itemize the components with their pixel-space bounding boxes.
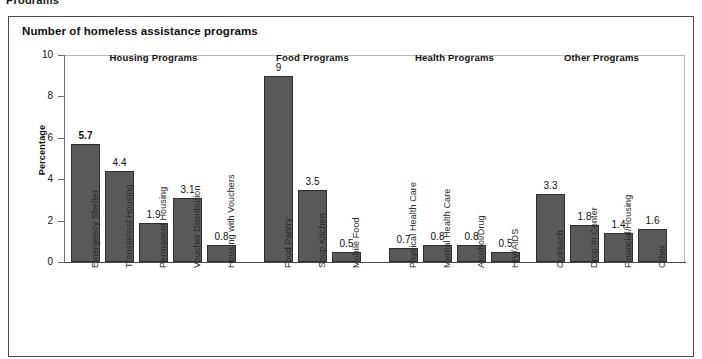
- bar-value-label: 3.5: [286, 176, 339, 187]
- y-axis-tick-label: 6: [9, 132, 53, 143]
- bar-value-label: 0.8: [195, 231, 248, 242]
- y-axis-line: [64, 55, 65, 263]
- x-axis-label: Emergency Shelter: [90, 190, 100, 268]
- cropped-header-text: Programs: [6, 0, 59, 4]
- x-axis-label: Outreach: [555, 230, 565, 268]
- x-axis-label: Mobile Food: [351, 217, 361, 268]
- bar-value-label: 9: [252, 62, 305, 73]
- bar-value-label: 1.6: [626, 215, 679, 226]
- x-axis-label: Housing with Vouchers: [226, 174, 236, 268]
- y-axis-tick-label: 8: [9, 90, 53, 101]
- y-axis-tick-label: 0: [9, 256, 53, 267]
- x-axis-label: Financial/Housing: [623, 195, 633, 268]
- bar-value-label: 4.4: [93, 157, 146, 168]
- bar-value-label: 3.3: [524, 180, 577, 191]
- x-axis-label: Transitional Housing: [124, 184, 134, 268]
- x-axis-label: Drop-In Center: [589, 207, 599, 268]
- y-axis-tick: [58, 221, 65, 222]
- bar-value-label: 0.5: [320, 238, 373, 249]
- x-axis-label: HIV/AIDS: [510, 229, 520, 268]
- y-axis-tick: [58, 179, 65, 180]
- x-axis-label: Voucher Distribution: [192, 185, 202, 268]
- x-axis-label: Physical Health Care: [408, 182, 418, 268]
- x-axis-label: Other: [657, 245, 667, 268]
- bar-value-label: 0.5: [479, 238, 532, 249]
- y-axis-tick: [58, 262, 65, 263]
- y-axis-tick-label: 4: [9, 173, 53, 184]
- y-axis-tick: [58, 96, 65, 97]
- bar-value-label: 5.7: [59, 130, 112, 141]
- x-axis-label: Mental Health Care: [442, 189, 452, 268]
- x-axis-label: Soup Kitchen: [317, 213, 327, 268]
- x-axis-label: Alcohol/Drug: [476, 215, 486, 268]
- page-title: Number of homeless assistance programs: [22, 25, 258, 37]
- y-axis-tick-label: 2: [9, 215, 53, 226]
- chart-panel: Number of homeless assistance programs P…: [8, 16, 694, 357]
- x-axis-label: Permanent Housing: [158, 187, 168, 268]
- x-axis-label: Food Pantry: [283, 218, 293, 268]
- bar-value-label: 3.1: [161, 184, 214, 195]
- group-header-other-programs: Other Programs: [496, 52, 702, 63]
